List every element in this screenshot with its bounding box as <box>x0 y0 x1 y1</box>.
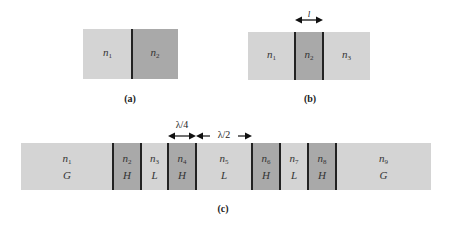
panel-c-label-n2: n2 H <box>113 143 141 190</box>
panel-c-label-n5: n5 L <box>196 143 252 190</box>
panel-b-label-n2: n2 <box>295 32 323 80</box>
panel-c-half-wave-label: λ/2 <box>210 129 238 140</box>
panel-a-label-n2: n2 <box>132 29 178 79</box>
panel-c-label-n4: n4 H <box>168 143 196 190</box>
panel-c-quarter-wave-arrow-icon <box>168 131 196 141</box>
panel-b-caption: (b) <box>295 93 325 104</box>
panel-c-label-n9: n9 G <box>336 143 431 190</box>
panel-c-label-n6: n6 H <box>252 143 280 190</box>
panel-b-label-n1: n1 <box>248 32 295 80</box>
panel-c-label-n3: n3 L <box>141 143 168 190</box>
panel-b-thickness-arrow-icon <box>295 15 323 25</box>
panel-a-caption: (a) <box>115 93 145 104</box>
panel-c-label-n1: n1 G <box>21 143 113 190</box>
panel-c-label-n7: n7 L <box>280 143 308 190</box>
panel-c-label-n8: n8 H <box>308 143 336 190</box>
panel-c-caption: (c) <box>208 203 238 214</box>
panel-a-label-n1: n1 <box>83 29 132 79</box>
panel-c-quarter-wave-label: λ/4 <box>168 119 196 130</box>
panel-b-label-n3: n3 <box>323 32 370 80</box>
